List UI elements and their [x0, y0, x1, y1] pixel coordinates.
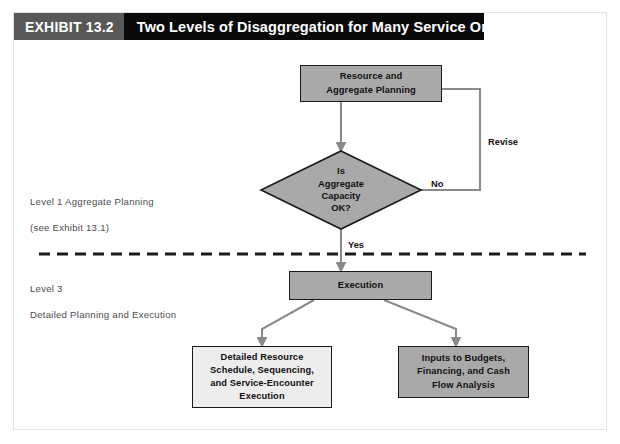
node-line: Execution — [210, 390, 314, 403]
node-line: and Service-Encounter — [210, 377, 314, 390]
node-line: Inputs to Budgets, — [417, 352, 510, 365]
edge-label-no: No — [431, 179, 443, 189]
node-inputs-to-budgets[interactable]: Inputs to Budgets, Financing, and Cash F… — [398, 346, 529, 398]
node-detailed-resource-schedule[interactable]: Detailed Resource Schedule, Sequencing, … — [192, 346, 332, 408]
node-line: Execution — [338, 279, 383, 292]
node-line: Detailed Resource — [210, 351, 314, 364]
node-is-aggregate-capacity-ok[interactable]: Is Aggregate Capacity OK? — [261, 151, 421, 229]
side-label-level3-title: Level 3 — [30, 283, 63, 294]
side-label-level1-note: (see Exhibit 13.1) — [30, 222, 109, 233]
node-line: Financing, and Cash — [417, 365, 510, 378]
node-line: OK? — [318, 202, 364, 214]
edge-label-yes: Yes — [348, 240, 364, 250]
side-label-level1-title: Level 1 Aggregate Planning — [30, 196, 154, 207]
node-execution[interactable]: Execution — [289, 271, 432, 300]
node-line: Schedule, Sequencing, — [210, 364, 314, 377]
node-line: Resource and — [326, 70, 416, 83]
node-resource-aggregate-planning[interactable]: Resource and Aggregate Planning — [300, 65, 442, 102]
node-line: Aggregate — [318, 178, 364, 190]
exhibit-frame: EXHIBIT 13.2 Two Levels of Disaggregatio… — [13, 12, 607, 430]
node-line: Flow Analysis — [417, 379, 510, 392]
node-line: Capacity — [318, 190, 364, 202]
connector-execution-to-detailed-schedule — [262, 300, 314, 346]
side-label-level3-note: Detailed Planning and Execution — [30, 309, 176, 320]
node-line: Is — [318, 165, 364, 177]
connector-execution-to-budgets — [384, 300, 456, 346]
edge-label-revise: Revise — [488, 137, 518, 147]
node-line: Aggregate Planning — [326, 84, 416, 97]
